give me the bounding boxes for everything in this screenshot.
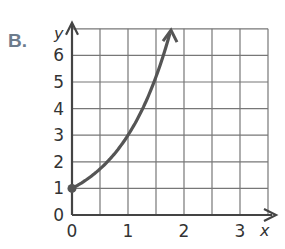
svg-text:1: 1 [53,178,64,198]
svg-text:x: x [259,221,270,240]
exponential-graph: 01230123456xy [0,0,285,249]
svg-text:3: 3 [235,221,246,241]
svg-text:6: 6 [53,45,64,65]
grid-lines [72,29,268,215]
svg-text:4: 4 [53,99,64,119]
axes [66,23,276,221]
svg-text:5: 5 [53,72,64,92]
svg-text:2: 2 [179,221,190,241]
svg-text:2: 2 [53,152,64,172]
svg-text:0: 0 [53,205,64,225]
svg-text:y: y [53,24,64,43]
svg-text:1: 1 [123,221,134,241]
svg-text:3: 3 [53,125,64,145]
svg-text:0: 0 [67,221,78,241]
curve [68,30,178,193]
